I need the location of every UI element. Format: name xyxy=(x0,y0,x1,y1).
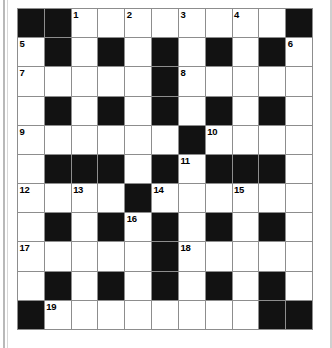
crossword-open-cell[interactable]: 4 xyxy=(233,9,259,37)
crossword-open-cell[interactable] xyxy=(125,38,151,66)
crossword-open-cell[interactable]: 13 xyxy=(72,184,98,212)
crossword-grid[interactable]: 12345678910111213141516171819 xyxy=(17,8,313,330)
crossword-open-cell[interactable] xyxy=(179,301,205,329)
crossword-open-cell[interactable]: 18 xyxy=(179,242,205,270)
crossword-open-cell[interactable] xyxy=(286,184,312,212)
crossword-open-cell[interactable] xyxy=(152,301,178,329)
crossword-open-cell[interactable]: 19 xyxy=(45,301,71,329)
crossword-open-cell[interactable] xyxy=(179,97,205,125)
crossword-open-cell[interactable] xyxy=(45,184,71,212)
crossword-open-cell[interactable] xyxy=(179,38,205,66)
crossword-open-cell[interactable] xyxy=(286,272,312,300)
crossword-open-cell[interactable] xyxy=(179,272,205,300)
crossword-open-cell[interactable]: 8 xyxy=(179,67,205,95)
page-edge-artifact-left xyxy=(3,0,5,348)
crossword-block-cell xyxy=(152,155,178,183)
crossword-block-cell xyxy=(286,301,312,329)
crossword-open-cell[interactable]: 6 xyxy=(286,38,312,66)
crossword-open-cell[interactable]: 9 xyxy=(18,126,44,154)
clue-number: 10 xyxy=(207,126,217,137)
clue-number: 3 xyxy=(180,9,185,20)
crossword-open-cell[interactable] xyxy=(206,9,232,37)
crossword-open-cell[interactable] xyxy=(125,67,151,95)
crossword-open-cell[interactable]: 14 xyxy=(152,184,178,212)
clue-number: 16 xyxy=(127,213,137,224)
crossword-open-cell[interactable] xyxy=(72,67,98,95)
crossword-open-cell[interactable]: 16 xyxy=(125,213,151,241)
crossword-open-cell[interactable] xyxy=(259,67,285,95)
crossword-open-cell[interactable] xyxy=(98,126,124,154)
crossword-open-cell[interactable] xyxy=(72,272,98,300)
crossword-open-cell[interactable] xyxy=(45,67,71,95)
crossword-open-cell[interactable]: 15 xyxy=(233,184,259,212)
crossword-block-cell xyxy=(206,213,232,241)
crossword-open-cell[interactable] xyxy=(125,126,151,154)
crossword-open-cell[interactable] xyxy=(98,9,124,37)
crossword-block-cell xyxy=(98,38,124,66)
crossword-open-cell[interactable] xyxy=(233,301,259,329)
clue-number: 19 xyxy=(46,301,56,312)
crossword-open-cell[interactable]: 17 xyxy=(18,242,44,270)
crossword-open-cell[interactable] xyxy=(72,301,98,329)
crossword-open-cell[interactable] xyxy=(72,242,98,270)
crossword-open-cell[interactable]: 10 xyxy=(206,126,232,154)
clue-number: 17 xyxy=(20,242,30,253)
crossword-block-cell xyxy=(286,9,312,37)
crossword-open-cell[interactable] xyxy=(45,126,71,154)
crossword-open-cell[interactable] xyxy=(125,272,151,300)
crossword-open-cell[interactable] xyxy=(233,38,259,66)
crossword-open-cell[interactable] xyxy=(259,184,285,212)
crossword-open-cell[interactable]: 5 xyxy=(18,38,44,66)
crossword-open-cell[interactable] xyxy=(206,67,232,95)
crossword-open-cell[interactable] xyxy=(286,126,312,154)
crossword-open-cell[interactable] xyxy=(233,272,259,300)
crossword-open-cell[interactable] xyxy=(206,242,232,270)
crossword-open-cell[interactable] xyxy=(18,97,44,125)
crossword-block-cell xyxy=(45,155,71,183)
crossword-open-cell[interactable]: 11 xyxy=(179,155,205,183)
crossword-open-cell[interactable] xyxy=(233,126,259,154)
crossword-open-cell[interactable] xyxy=(72,38,98,66)
crossword-open-cell[interactable]: 2 xyxy=(125,9,151,37)
crossword-open-cell[interactable] xyxy=(98,184,124,212)
crossword-open-cell[interactable]: 3 xyxy=(179,9,205,37)
crossword-open-cell[interactable] xyxy=(233,97,259,125)
crossword-open-cell[interactable] xyxy=(72,126,98,154)
crossword-block-cell xyxy=(45,9,71,37)
crossword-open-cell[interactable] xyxy=(125,301,151,329)
crossword-open-cell[interactable]: 12 xyxy=(18,184,44,212)
crossword-open-cell[interactable] xyxy=(233,67,259,95)
crossword-block-cell xyxy=(18,9,44,37)
crossword-open-cell[interactable] xyxy=(233,213,259,241)
crossword-open-cell[interactable] xyxy=(286,67,312,95)
crossword-open-cell[interactable] xyxy=(286,97,312,125)
crossword-open-cell[interactable] xyxy=(125,242,151,270)
crossword-open-cell[interactable] xyxy=(259,9,285,37)
crossword-open-cell[interactable] xyxy=(179,213,205,241)
crossword-open-cell[interactable] xyxy=(45,242,71,270)
crossword-open-cell[interactable] xyxy=(98,67,124,95)
crossword-open-cell[interactable] xyxy=(259,126,285,154)
crossword-open-cell[interactable] xyxy=(72,97,98,125)
crossword-open-cell[interactable] xyxy=(98,242,124,270)
crossword-open-cell[interactable] xyxy=(206,301,232,329)
crossword-open-cell[interactable] xyxy=(72,213,98,241)
crossword-open-cell[interactable]: 7 xyxy=(18,67,44,95)
crossword-open-cell[interactable] xyxy=(233,242,259,270)
crossword-open-cell[interactable] xyxy=(152,126,178,154)
crossword-open-cell[interactable] xyxy=(18,155,44,183)
crossword-open-cell[interactable] xyxy=(286,213,312,241)
crossword-open-cell[interactable] xyxy=(152,9,178,37)
crossword-open-cell[interactable]: 1 xyxy=(72,9,98,37)
crossword-open-cell[interactable] xyxy=(18,213,44,241)
crossword-open-cell[interactable] xyxy=(98,301,124,329)
crossword-open-cell[interactable] xyxy=(125,155,151,183)
crossword-open-cell[interactable] xyxy=(125,97,151,125)
crossword-open-cell[interactable] xyxy=(179,184,205,212)
clue-number: 2 xyxy=(127,9,132,20)
crossword-open-cell[interactable] xyxy=(206,184,232,212)
crossword-open-cell[interactable] xyxy=(286,155,312,183)
crossword-open-cell[interactable] xyxy=(259,242,285,270)
crossword-open-cell[interactable] xyxy=(18,272,44,300)
crossword-open-cell[interactable] xyxy=(286,242,312,270)
